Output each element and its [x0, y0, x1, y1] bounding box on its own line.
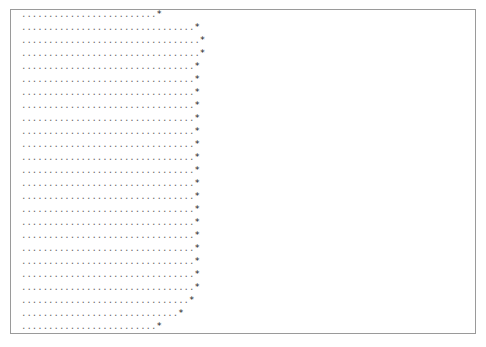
plot-row: ................................*: [21, 268, 205, 281]
asterisk-marker: *: [194, 126, 199, 136]
dot-leader: ................................: [21, 269, 194, 279]
asterisk-marker: *: [194, 282, 199, 292]
plot-row: ................................*: [21, 216, 205, 229]
plot-row: .........................*: [21, 320, 205, 333]
dot-leader: ................................: [21, 178, 194, 188]
dot-leader: ................................: [21, 139, 194, 149]
asterisk-marker: *: [156, 9, 161, 19]
asterisk-marker: *: [194, 139, 199, 149]
dot-leader: .................................: [21, 48, 200, 58]
asterisk-marker: *: [194, 152, 199, 162]
plot-row: ................................*: [21, 164, 205, 177]
dot-leader: ................................: [21, 217, 194, 227]
asterisk-marker: *: [189, 295, 194, 305]
plot-row: .................................*: [21, 34, 205, 47]
dot-leader: ................................: [21, 126, 194, 136]
plot-row: ................................*: [21, 177, 205, 190]
asterisk-marker: *: [194, 256, 199, 266]
asterisk-marker: *: [200, 48, 205, 58]
dot-leader: ................................: [21, 282, 194, 292]
asterisk-marker: *: [178, 308, 183, 318]
asterisk-marker: *: [194, 74, 199, 84]
asterisk-marker: *: [194, 204, 199, 214]
plot-row: ................................*: [21, 21, 205, 34]
plot-row: ...............................*: [21, 294, 205, 307]
asterisk-marker: *: [194, 243, 199, 253]
asterisk-marker: *: [156, 321, 161, 331]
plot-row: .........................*: [21, 8, 205, 21]
dot-leader: ................................: [21, 100, 194, 110]
asterisk-marker: *: [194, 191, 199, 201]
dot-leader: .........................: [21, 9, 156, 19]
dot-leader: .............................: [21, 308, 178, 318]
plot-row: ................................*: [21, 99, 205, 112]
plot-row: ................................*: [21, 190, 205, 203]
plot-row: .................................*: [21, 47, 205, 60]
dot-leader: ................................: [21, 74, 194, 84]
asterisk-marker: *: [194, 217, 199, 227]
ascii-plot: .........................*..............…: [21, 8, 205, 333]
asterisk-marker: *: [194, 61, 199, 71]
dot-leader: ................................: [21, 204, 194, 214]
asterisk-marker: *: [194, 165, 199, 175]
dot-leader: ................................: [21, 191, 194, 201]
dot-leader: .........................: [21, 321, 156, 331]
plot-row: .............................*: [21, 307, 205, 320]
asterisk-marker: *: [194, 269, 199, 279]
dot-leader: ................................: [21, 256, 194, 266]
asterisk-marker: *: [194, 87, 199, 97]
dot-leader: ................................: [21, 113, 194, 123]
plot-row: ................................*: [21, 151, 205, 164]
dot-leader: ................................: [21, 243, 194, 253]
asterisk-marker: *: [200, 35, 205, 45]
plot-row: ................................*: [21, 242, 205, 255]
dot-leader: ................................: [21, 61, 194, 71]
plot-row: ................................*: [21, 229, 205, 242]
asterisk-marker: *: [194, 22, 199, 32]
dot-leader: ................................: [21, 87, 194, 97]
plot-row: ................................*: [21, 60, 205, 73]
dot-leader: ................................: [21, 230, 194, 240]
plot-row: ................................*: [21, 125, 205, 138]
plot-row: ................................*: [21, 112, 205, 125]
asterisk-marker: *: [194, 113, 199, 123]
dot-leader: ................................: [21, 22, 194, 32]
dot-leader: ................................: [21, 152, 194, 162]
asterisk-marker: *: [194, 230, 199, 240]
plot-row: ................................*: [21, 255, 205, 268]
dot-leader: .................................: [21, 35, 200, 45]
plot-row: ................................*: [21, 138, 205, 151]
plot-row: ................................*: [21, 73, 205, 86]
asterisk-marker: *: [194, 178, 199, 188]
dot-leader: ...............................: [21, 295, 189, 305]
plot-row: ................................*: [21, 86, 205, 99]
plot-row: ................................*: [21, 203, 205, 216]
dot-leader: ................................: [21, 165, 194, 175]
plot-row: ................................*: [21, 281, 205, 294]
asterisk-marker: *: [194, 100, 199, 110]
